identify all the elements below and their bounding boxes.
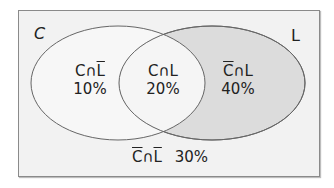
- region-both-value: 20%: [133, 80, 193, 98]
- set-c-label: C: [34, 24, 45, 43]
- region-c-only-value: 10%: [60, 80, 120, 98]
- region-l-only-label: C∩L: [208, 62, 268, 80]
- region-c-only: C∩L 10%: [60, 62, 120, 98]
- set-l-label: L: [291, 26, 300, 45]
- region-neither-label: C∩L: [132, 148, 162, 166]
- region-l-only-value: 40%: [208, 80, 268, 98]
- region-both: C∩L 20%: [133, 62, 193, 98]
- region-l-only: C∩L 40%: [208, 62, 268, 98]
- region-c-only-label: C∩L: [60, 62, 120, 80]
- region-both-label: C∩L: [133, 62, 193, 80]
- region-neither-value: 30%: [175, 148, 208, 166]
- region-neither: C∩L 30%: [125, 148, 215, 166]
